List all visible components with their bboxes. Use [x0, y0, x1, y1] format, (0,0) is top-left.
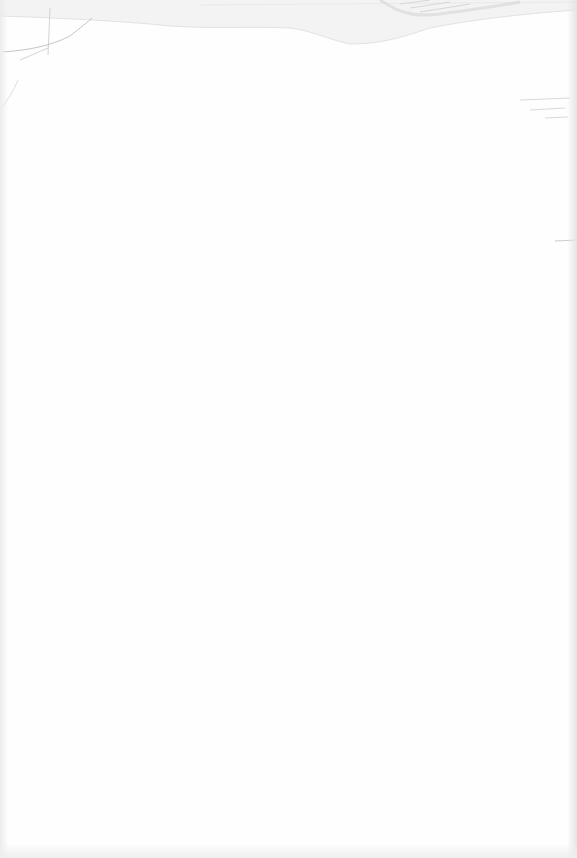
- bottom-page-edge: [0, 844, 577, 858]
- right-page-edge: [567, 0, 577, 858]
- page-content-area: [40, 80, 537, 820]
- blank-page: [0, 0, 577, 858]
- torn-top-edge: [0, 0, 577, 60]
- left-page-edge: [0, 0, 8, 858]
